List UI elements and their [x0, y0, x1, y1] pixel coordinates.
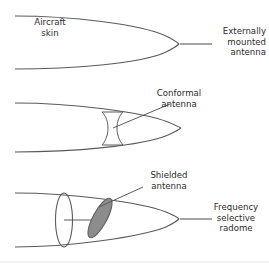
panel-shielded-radome-graphics — [15, 187, 212, 247]
aircraft-skin-lower-line — [15, 44, 179, 69]
externally-mounted-antenna-label: Externally mounted antenna — [204, 26, 266, 58]
aircraft-antenna-installation-diagram: Aircraft skin Externally mounted antenna… — [0, 0, 269, 268]
aircraft-skin-label: Aircraft skin — [22, 17, 78, 38]
conformal-skin-lower-line — [15, 128, 181, 152]
conformal-antenna-label: Conformal antenna — [148, 88, 210, 109]
conformal-antenna-shape — [102, 112, 123, 145]
frequency-selective-radome-label: Frequency selective radome — [207, 202, 265, 234]
shielded-antenna-label: Shielded antenna — [141, 170, 197, 191]
panel-conformal-graphics — [15, 103, 181, 152]
shielded-antenna-shape — [83, 195, 116, 240]
